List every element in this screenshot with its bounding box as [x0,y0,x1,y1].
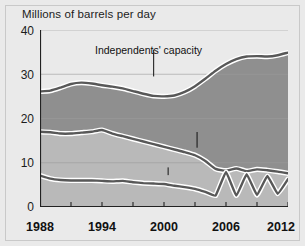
y-tick-label-40: 40 [8,24,34,38]
x-tick-label-2006: 2006 [204,220,248,234]
y-tick-label-10: 10 [8,156,34,170]
y-tick-label-20: 20 [8,112,34,126]
x-tick-label-2012: 2012 [259,220,303,234]
plot-area [40,30,288,207]
chart-figure: Millions of barrels per day 40 30 20 10 … [0,0,305,246]
x-tick-label-1994: 1994 [80,220,124,234]
y-tick-label-30: 30 [8,68,34,82]
x-tick-label-1988: 1988 [18,220,62,234]
chart-title: Millions of barrels per day [22,8,156,20]
y-tick-label-0: 0 [8,200,34,214]
x-tick-label-2000: 2000 [142,220,186,234]
plot-svg [40,30,288,207]
